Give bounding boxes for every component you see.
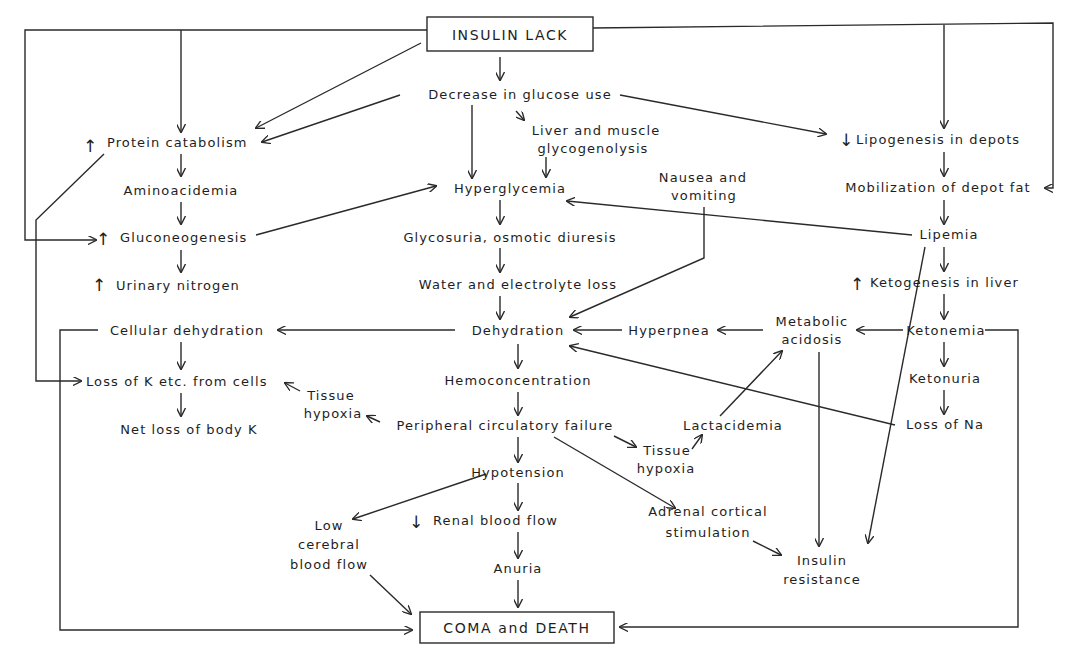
node-gluconeogenesis: Gluconeogenesis [120, 230, 247, 245]
node-hyperglycemia: Hyperglycemia [454, 181, 566, 196]
node-hypotension: Hypotension [471, 465, 565, 480]
node-tissue-hypoxia-left-line2: hypoxia [304, 406, 363, 421]
node-ketogenesis: Ketogenesis in liver [870, 275, 1019, 290]
node-glycosuria: Glycosuria, osmotic diuresis [403, 230, 616, 245]
edge-insulin-right-frame [592, 23, 1053, 188]
edge-tissue-lossk [285, 383, 300, 391]
increase-arrow-icon: ↑ [83, 136, 97, 156]
node-decrease-glucose-use: Decrease in glucose use [428, 87, 611, 102]
node-renal-blood-flow: Renal blood flow [433, 513, 558, 528]
node-lipogenesis: Lipogenesis in depots [856, 132, 1020, 147]
node-hemoconcentration: Hemoconcentration [444, 373, 591, 388]
edge-peripheral-hypoxia-right [614, 436, 636, 447]
node-liver-muscle-line1: Liver and muscle [532, 123, 661, 138]
node-insulin-lack: INSULIN LACK [452, 27, 568, 43]
edge-adrenal-insulinres [753, 541, 781, 555]
node-low-cerebral-line3: blood flow [290, 557, 368, 572]
node-water-electrolyte-loss: Water and electrolyte loss [419, 277, 617, 292]
increase-arrow-icon: ↑ [96, 229, 110, 249]
decrease-arrow-icon: ↓ [409, 512, 423, 532]
node-lactacidemia: Lactacidemia [683, 418, 783, 433]
node-tissue-hypoxia-right-line2: hypoxia [637, 461, 696, 476]
node-ketonuria: Ketonuria [909, 371, 981, 386]
node-insulin-resistance-line1: Insulin [797, 553, 847, 568]
insulin-lack-flow-diagram: INSULIN LACK Decrease in glucose use Liv… [0, 0, 1078, 662]
node-peripheral-failure: Peripheral circulatory failure [397, 418, 614, 433]
edge-peripheral-hypoxia-left [367, 416, 380, 422]
node-aminoacidemia: Aminoacidemia [124, 183, 239, 198]
node-adrenal-line2: stimulation [666, 525, 751, 540]
node-ketonemia: Ketonemia [906, 323, 985, 338]
node-hyperpnea: Hyperpnea [628, 323, 709, 338]
node-liver-muscle-line2: glycogenolysis [538, 141, 649, 156]
edge-nausea-dehydration [570, 207, 704, 317]
node-tissue-hypoxia-left-line1: Tissue [306, 388, 355, 403]
node-nausea-line2: vomiting [671, 188, 737, 203]
edge-lipemia-insulinres [868, 247, 925, 543]
node-adrenal-line1: Adrenal cortical [648, 504, 767, 519]
node-nausea-line1: Nausea and [659, 170, 747, 185]
edge-decrease-protein [262, 95, 400, 142]
edge-hypoxia-lactacidemia [692, 435, 702, 449]
node-low-cerebral-line2: cerebral [298, 537, 360, 552]
node-dehydration: Dehydration [472, 323, 565, 338]
decrease-arrow-icon: ↓ [839, 130, 853, 150]
edge-lossna-dehydration [570, 346, 895, 425]
edge-protein-lossk [36, 154, 104, 381]
node-labels: INSULIN LACK Decrease in glucose use Liv… [83, 27, 1031, 636]
node-metabolic-line1: Metabolic [776, 314, 849, 329]
node-mobilization: Mobilization of depot fat [845, 180, 1031, 195]
edge-decrease-liver [516, 111, 524, 120]
node-urinary-nitrogen: Urinary nitrogen [116, 278, 240, 293]
edge-gluconeo-hyperglycemia [256, 186, 436, 235]
node-metabolic-line2: acidosis [782, 332, 843, 347]
node-low-cerebral-line1: Low [315, 518, 344, 533]
edge-lactacidemia-metabolic [720, 351, 782, 416]
node-lipemia: Lipemia [919, 227, 978, 242]
node-insulin-resistance-line2: resistance [783, 572, 861, 587]
node-coma-death: COMA and DEATH [443, 620, 590, 636]
node-protein-catabolism: Protein catabolism [107, 135, 248, 150]
increase-arrow-icon: ↑ [850, 274, 864, 294]
node-tissue-hypoxia-right-line1: Tissue [642, 443, 691, 458]
increase-arrow-icon: ↑ [92, 275, 106, 295]
node-anuria: Anuria [494, 561, 543, 576]
node-cellular-dehydration: Cellular dehydration [110, 323, 264, 338]
edge-lowcerebral-coma [370, 575, 411, 614]
node-loss-na: Loss of Na [906, 417, 984, 432]
node-loss-k-cells: Loss of K etc. from cells [86, 374, 268, 389]
edge-lipemia-hyperglycemia [567, 201, 912, 235]
node-net-loss-k: Net loss of body K [120, 422, 257, 437]
